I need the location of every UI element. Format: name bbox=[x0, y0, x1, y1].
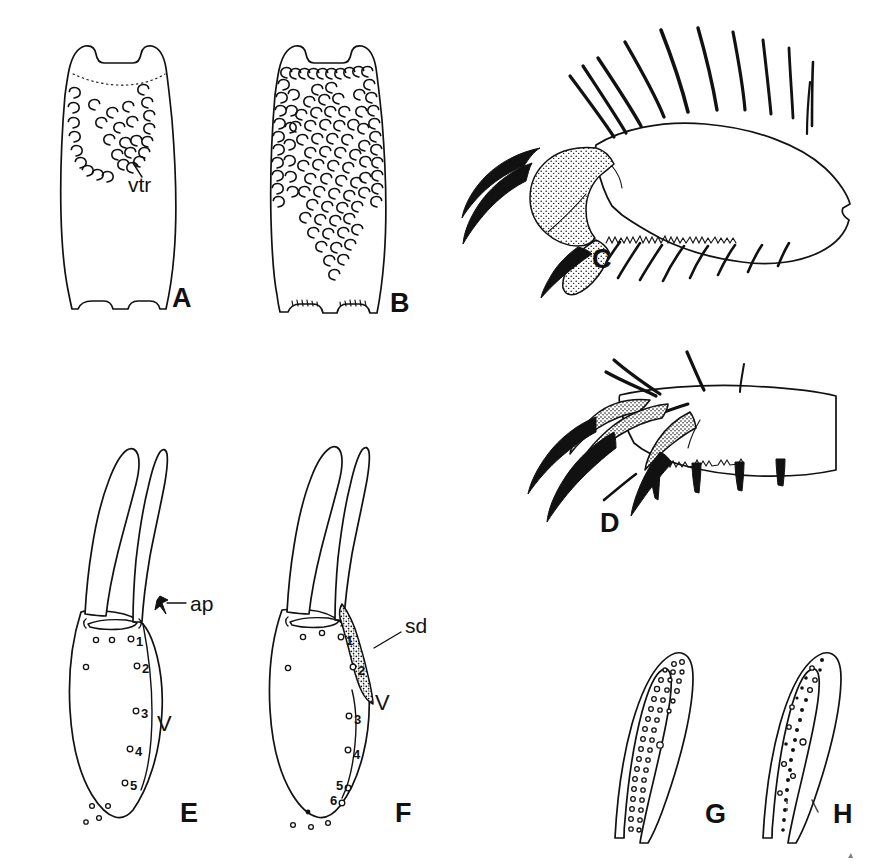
panel-letter-e: E bbox=[180, 798, 198, 828]
panel-e-pore-label-2: 2 bbox=[142, 661, 149, 676]
panel-f-sd-label: sd bbox=[405, 614, 427, 637]
panel-e-pore-4 bbox=[127, 746, 133, 752]
panel-f-pore-e bbox=[291, 823, 296, 828]
panel-e-pore-f bbox=[97, 816, 102, 821]
panel-f-pore-f bbox=[309, 825, 314, 830]
panel-e-pore-d bbox=[90, 804, 95, 809]
panel-b-outline bbox=[271, 46, 386, 313]
panel-e-pore-3 bbox=[133, 708, 139, 714]
panel-e-pore-g bbox=[84, 820, 88, 824]
panel-e-pore-b bbox=[109, 637, 114, 642]
panel-f-pore-label-1: 1 bbox=[346, 633, 353, 648]
panel-f-pore-label-2: 2 bbox=[358, 663, 365, 678]
panel-f-pore-1 bbox=[338, 634, 344, 640]
panel-e-pore-5 bbox=[122, 780, 128, 786]
panel-f-pore-label-6: 6 bbox=[330, 793, 337, 808]
panel-e-ap-label: ap bbox=[190, 592, 213, 615]
panel-f-pore-c bbox=[285, 665, 290, 670]
panel-letter-a: A bbox=[172, 283, 192, 313]
panel-f-pore-g bbox=[326, 821, 331, 826]
panel-e-pore-label-3: 3 bbox=[141, 706, 148, 721]
panel-f-pore-6 bbox=[339, 800, 345, 806]
panel-f-pore-d bbox=[306, 810, 311, 815]
panel-letter-c: C bbox=[592, 244, 612, 274]
panel-e-pore-2 bbox=[134, 663, 140, 669]
panel-letter-b: B bbox=[390, 288, 410, 318]
panel-f-v-label: V bbox=[375, 690, 390, 715]
panel-e-pore-e bbox=[106, 804, 111, 809]
panel-f-pore-2 bbox=[350, 664, 356, 670]
panel-e-pore-1 bbox=[128, 636, 134, 642]
panel-e-pore-label-1: 1 bbox=[136, 634, 143, 649]
panel-f-pore-b bbox=[319, 630, 324, 635]
panel-a-vtr-label: vtr bbox=[128, 173, 151, 196]
panel-letter-d: D bbox=[600, 508, 620, 538]
panel-e-pore-a bbox=[93, 637, 98, 642]
panel-letter-g: G bbox=[705, 799, 726, 829]
panel-f-pore-label-5: 5 bbox=[336, 778, 343, 793]
illustration-plate: vtr A bbox=[0, 0, 877, 866]
panel-letter-f: F bbox=[395, 798, 412, 828]
panel-f-pore-a bbox=[300, 634, 305, 639]
panel-e-pore-label-4: 4 bbox=[135, 744, 143, 759]
panel-e-pore-c bbox=[83, 664, 88, 669]
panel-e-v-label: V bbox=[157, 711, 172, 736]
panel-letter-h: H bbox=[833, 799, 853, 829]
panel-f-pore-4 bbox=[345, 747, 351, 753]
panel-e-pore-label-5: 5 bbox=[130, 778, 137, 793]
panel-f-pore-3 bbox=[346, 713, 352, 719]
